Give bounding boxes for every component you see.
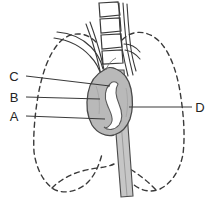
label-C: C (9, 69, 18, 84)
vertebra-2 (100, 18, 121, 33)
label-D: D (195, 100, 204, 115)
chest-radiograph-diagram: C B A D (0, 0, 215, 212)
vertebra-1 (99, 2, 120, 17)
vertebra-4 (102, 50, 123, 64)
figure-container: C B A D (0, 0, 215, 212)
label-B: B (10, 90, 19, 105)
vertebra-3 (101, 34, 122, 49)
label-A: A (10, 109, 19, 124)
